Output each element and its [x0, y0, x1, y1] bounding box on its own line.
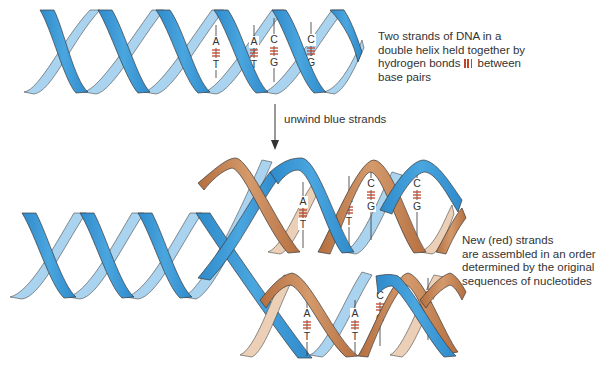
- arrow-label: unwind blue strands: [284, 113, 386, 127]
- base-label: A: [351, 307, 358, 319]
- base-label: G: [270, 56, 278, 68]
- base-label: A: [250, 35, 257, 47]
- base-label: A: [212, 35, 219, 47]
- caption-text: between: [477, 57, 520, 69]
- unwind-arrow: [271, 104, 279, 150]
- base-label: G: [413, 200, 421, 212]
- base-label: T: [300, 218, 307, 230]
- base-label: C: [270, 33, 278, 45]
- caption-new-strands: New (red) strands are assembled in an or…: [462, 234, 597, 288]
- caption-text: hydrogen bonds: [378, 57, 460, 69]
- caption-line: base pairs: [378, 71, 593, 85]
- base-label: T: [346, 215, 353, 227]
- base-label: T: [352, 330, 359, 342]
- parental-double-helix: A T A T C G: [24, 10, 364, 94]
- base-label: C: [307, 33, 315, 45]
- caption-line: are assembled in an order: [462, 248, 597, 262]
- base-label: T: [213, 58, 220, 70]
- base-pair-4: C G: [412, 170, 422, 236]
- base-label: A: [303, 307, 310, 319]
- caption-line: hydrogen bondsbetween: [378, 57, 593, 71]
- caption-line: Two strands of DNA in a: [378, 30, 593, 44]
- caption-parental-helix: Two strands of DNA in a double helix hel…: [378, 30, 593, 84]
- base-label: T: [304, 330, 311, 342]
- base-label: C: [367, 177, 375, 189]
- caption-line: determined by the original: [462, 261, 597, 275]
- base-label: C: [413, 177, 421, 189]
- base-label: G: [367, 200, 375, 212]
- daughter-helix-lower: A T A T C G: [240, 272, 466, 357]
- base-pair-2: A T: [350, 300, 360, 356]
- base-pair-1: A T: [211, 25, 221, 78]
- caption-line: sequences of nucleotides: [462, 275, 597, 289]
- hydrogen-bond-icon: [464, 59, 474, 68]
- caption-line: double helix held together by: [378, 44, 593, 58]
- base-label: A: [299, 195, 306, 207]
- caption-line: New (red) strands: [462, 234, 597, 248]
